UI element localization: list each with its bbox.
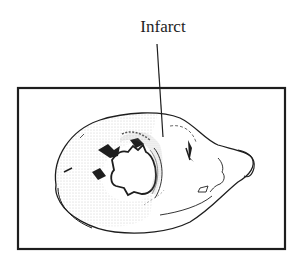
heart-section bbox=[55, 113, 254, 233]
leader-line bbox=[157, 44, 163, 137]
heart-illustration bbox=[0, 0, 308, 261]
